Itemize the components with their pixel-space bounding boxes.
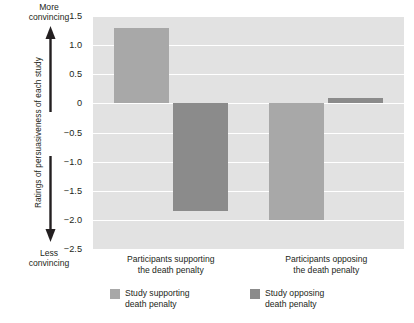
y-tick-label: 1.5 [69,11,82,21]
y-tick-label: −1.0 [64,157,82,167]
x-category-label: Participants opposing the death penalty [251,254,401,276]
bar [114,28,169,104]
y-tick-label: 0.5 [69,69,82,79]
y-axis-tick-labels: 1.51.00.50−0.5−1.0−1.5−2.0−2.5 [0,0,88,323]
legend-label: Study opposing death penalty [265,288,324,310]
bar [173,103,228,211]
bar [269,103,324,220]
y-tick-label: −1.5 [64,186,82,196]
plot-area [93,16,404,249]
gridline [93,162,404,163]
bar [328,98,383,104]
chart-figure: Ratings of persuasiveness of each study … [0,0,414,323]
y-tick-label: −2.0 [64,215,82,225]
legend-label: Study supporting death penalty [125,288,190,310]
legend-swatch-icon [250,289,260,299]
x-category-label: Participants supporting the death penalt… [96,254,246,276]
y-tick-label: 1.0 [69,40,82,50]
legend-item: Study opposing death penalty [250,288,324,310]
y-tick-label: −0.5 [64,128,82,138]
legend-item: Study supporting death penalty [110,288,190,310]
gridline [93,191,404,192]
gridline [93,16,404,17]
zero-gridline [93,103,404,104]
gridline [93,249,404,250]
y-tick-label: −2.5 [64,244,82,254]
chart-legend: Study supporting death penalty Study opp… [110,288,410,318]
gridline [93,220,404,221]
legend-swatch-icon [110,289,120,299]
y-tick-label: 0 [77,98,82,108]
gridline [93,133,404,134]
